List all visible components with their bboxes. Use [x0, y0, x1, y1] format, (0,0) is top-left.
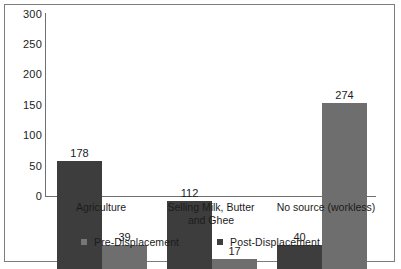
legend-swatch-icon: [81, 239, 87, 245]
bar-value-label: 178: [57, 147, 102, 159]
bar-post-agriculture[interactable]: [102, 245, 147, 269]
bar-value-label: 274: [322, 89, 367, 101]
bar-pre-no-source[interactable]: [277, 245, 322, 269]
y-tick-label: 300: [8, 9, 42, 19]
y-axis-tick-labels: 300 250 200 150 100 50 0: [4, 0, 42, 269]
y-tick-label: 250: [8, 39, 42, 49]
bar-pre-agriculture[interactable]: [57, 161, 102, 269]
legend-item-post-displacement[interactable]: Post-Displacement: [217, 236, 320, 248]
y-tick-label: 200: [8, 69, 42, 79]
y-tick-label: 100: [8, 130, 42, 140]
category-line: and Ghee: [188, 214, 234, 226]
bar-value-label: 112: [167, 187, 212, 199]
legend-label: Post-Displacement: [230, 236, 320, 248]
legend-swatch-icon: [217, 239, 223, 245]
legend-item-pre-displacement[interactable]: Pre-Displacement: [81, 236, 179, 248]
x-category-label-selling-milk: Selling Milk, Butter and Ghee: [151, 201, 271, 226]
y-tick-label: 0: [8, 191, 42, 201]
bar-post-selling-milk[interactable]: [212, 259, 257, 269]
legend-label: Pre-Displacement: [94, 236, 179, 248]
chart-legend: Pre-Displacement Post-Displacement: [0, 236, 401, 248]
category-line: Selling Milk, Butter: [168, 201, 255, 213]
x-category-label-no-source: No source (workless): [271, 201, 381, 214]
y-tick-label: 150: [8, 100, 42, 110]
category-line: No source (workless): [277, 201, 376, 213]
x-category-label-agriculture: Agriculture: [46, 201, 156, 214]
y-tick-label: 50: [8, 161, 42, 171]
bar-chart-figure: 300 250 200 150 100 50 0 178 39 112 17 4…: [0, 0, 401, 269]
category-line: Agriculture: [76, 201, 126, 213]
